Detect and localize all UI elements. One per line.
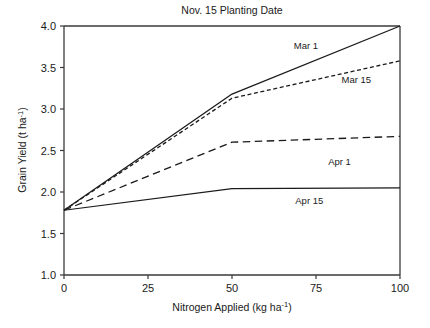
y-tick-label: 4.0 — [41, 20, 56, 32]
y-tick-label: 2.0 — [41, 186, 56, 198]
series-label-group: Mar 1Mar 15Apr 1Apr 15 — [294, 40, 371, 206]
series-label-mar-1: Mar 1 — [294, 40, 318, 51]
x-tick-label: 0 — [61, 282, 67, 294]
x-tick-label: 50 — [226, 282, 238, 294]
x-axis-ticks: 0255075100 — [61, 275, 409, 294]
x-tick-label: 25 — [142, 282, 154, 294]
data-series-group — [64, 26, 400, 210]
series-label-apr-1: Apr 1 — [328, 156, 351, 167]
plot-axes — [64, 26, 400, 275]
series-line-apr-15 — [64, 188, 400, 210]
y-tick-label: 3.0 — [41, 103, 56, 115]
x-tick-label: 75 — [310, 282, 322, 294]
y-axis-title: Grain Yield (t ha-1) — [16, 107, 29, 192]
chart-figure: Nov. 15 Planting Date 1.01.52.02.53.03.5… — [0, 0, 430, 328]
y-tick-label: 3.5 — [41, 62, 56, 74]
y-tick-label: 2.5 — [41, 145, 56, 157]
x-tick-label: 100 — [391, 282, 409, 294]
y-tick-label: 1.0 — [41, 269, 56, 281]
grain-yield-line-chart: Nov. 15 Planting Date 1.01.52.02.53.03.5… — [0, 0, 430, 328]
y-axis-ticks: 1.01.52.02.53.03.54.0 — [41, 20, 64, 281]
series-label-apr-15: Apr 15 — [295, 195, 323, 206]
x-axis-title: Nitrogen Applied (kg ha-1) — [172, 300, 291, 313]
y-tick-label: 1.5 — [41, 228, 56, 240]
series-line-mar-1 — [64, 26, 400, 210]
chart-title: Nov. 15 Planting Date — [181, 4, 283, 16]
series-label-mar-15: Mar 15 — [342, 74, 372, 85]
series-line-apr-1 — [64, 136, 400, 210]
